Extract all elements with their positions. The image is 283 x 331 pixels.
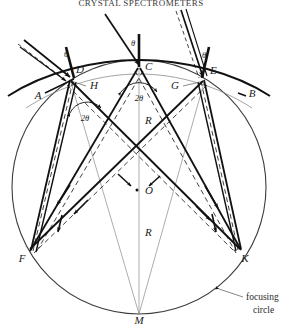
label-h: H — [89, 79, 99, 91]
center-point-o — [136, 189, 139, 192]
label-e: E — [209, 64, 217, 76]
arrow-e-f — [74, 200, 88, 214]
incident-ray-e-dashed — [176, 11, 199, 78]
ray-d-f-1 — [31, 80, 70, 250]
annotation-focusing-line2: circle — [253, 305, 274, 315]
label-theta-left: θ — [64, 49, 68, 59]
label-2theta-left: 2θ — [81, 113, 89, 123]
label-theta-right: θ — [202, 50, 206, 60]
crystal-spectrometer-figure: CRYSTAL SPECTROMETERS — [0, 0, 283, 331]
label-k: K — [240, 252, 249, 264]
ray-e-k-dashed — [201, 81, 238, 250]
label-theta-center: θ — [131, 38, 135, 48]
label-r-upper: R — [144, 114, 152, 126]
line-segment-b — [238, 93, 246, 96]
label-2theta-center: 2θ — [135, 93, 143, 103]
label-o: O — [145, 184, 153, 196]
label-m: M — [133, 314, 144, 326]
figure-title: CRYSTAL SPECTROMETERS — [78, 0, 203, 8]
label-g: G — [171, 79, 179, 91]
label-r-lower: R — [144, 226, 152, 238]
incident-ray-e-1 — [181, 10, 203, 77]
label-b: B — [249, 87, 256, 99]
ray-e-f-dashed — [34, 85, 207, 253]
annotation-focusing-line1: focusing — [246, 292, 279, 302]
arrow-d-k — [196, 206, 210, 220]
diagram-canvas: CRYSTAL SPECTROMETERS — [0, 0, 283, 331]
label-a: A — [34, 89, 42, 101]
incident-ray-d-dashed — [18, 44, 64, 79]
arrow-c-f — [57, 185, 70, 205]
leader-focusing-circle — [219, 289, 243, 297]
label-f: F — [18, 252, 26, 264]
ray-d-f-2 — [36, 82, 76, 252]
label-c: C — [145, 60, 153, 72]
arrow-c-k — [205, 186, 218, 208]
incident-ray-d-2 — [20, 47, 66, 81]
ray-e-k-1 — [204, 80, 241, 249]
ray-c-k — [140, 68, 241, 250]
arrow-mid-left — [118, 174, 131, 186]
label-d: D — [75, 63, 84, 75]
